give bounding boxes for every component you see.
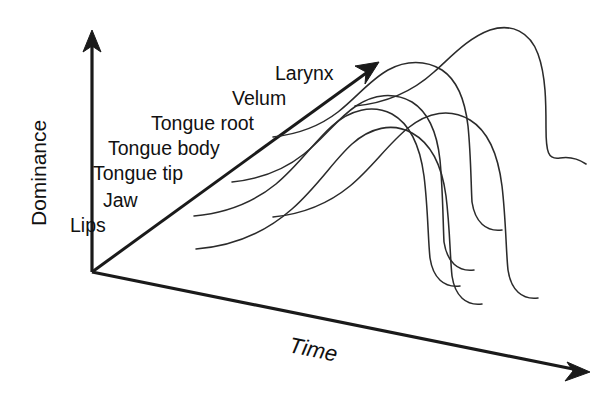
tier-label-velum: Velum — [232, 87, 286, 109]
tier-label-tongue-root: Tongue root — [151, 112, 255, 134]
dominance-model-diagram: Lips Jaw Tongue tip Tongue body Tongue r… — [0, 0, 614, 398]
tier-label-lips: Lips — [70, 214, 106, 236]
tier-label-jaw: Jaw — [103, 189, 139, 211]
tier-label-larynx: Larynx — [275, 62, 334, 84]
tongue-body-dominance-curve — [273, 63, 502, 231]
right-arrow-icon — [565, 362, 590, 381]
axis-group — [83, 30, 590, 381]
dominance-axis-label: Dominance — [27, 120, 50, 226]
tongue-root-dominance-curve — [273, 113, 538, 298]
diagonal-arrow-icon — [355, 62, 379, 84]
tier-label-tongue-tip: Tongue tip — [93, 162, 183, 184]
dominance-curves-group — [194, 28, 586, 305]
time-axis-label: Time — [287, 332, 340, 366]
tier-labels-group: Lips Jaw Tongue tip Tongue body Tongue r… — [70, 62, 334, 236]
figure-canvas: Lips Jaw Tongue tip Tongue body Tongue r… — [0, 0, 614, 398]
jaw-dominance-curve — [194, 109, 460, 286]
tier-label-tongue-body: Tongue body — [108, 137, 220, 159]
